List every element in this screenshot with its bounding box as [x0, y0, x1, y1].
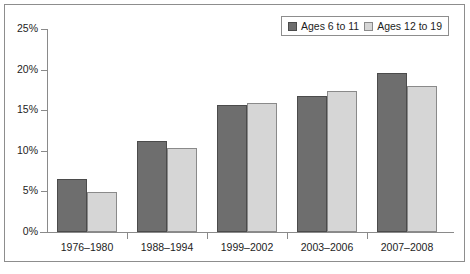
y-axis-tick-label: 15% — [17, 104, 38, 115]
x-axis-category-label: 1988–1994 — [127, 242, 207, 253]
legend-swatch-icon — [364, 22, 373, 31]
x-axis-line — [40, 232, 454, 233]
x-axis-category-label: 1976–1980 — [47, 242, 127, 253]
y-axis-tick-label: 25% — [17, 23, 38, 34]
chart-legend: Ages 6 to 11Ages 12 to 19 — [281, 16, 449, 36]
y-axis-tick-label: 0% — [23, 226, 38, 237]
bar-ages-12-19 — [327, 91, 357, 232]
y-axis-tick-label: 10% — [17, 145, 38, 156]
x-axis-category-label: 2003–2006 — [287, 242, 367, 253]
bar-ages-6-11 — [297, 96, 327, 232]
bar-ages-12-19 — [87, 192, 117, 232]
y-axis-tick-label: 5% — [23, 185, 38, 196]
x-axis-category-label: 1999–2002 — [207, 242, 287, 253]
x-axis-tick — [127, 233, 128, 239]
bar-ages-12-19 — [407, 86, 437, 232]
bar-ages-6-11 — [137, 141, 167, 232]
bar-ages-12-19 — [167, 148, 197, 232]
bar-ages-6-11 — [377, 73, 407, 232]
chart-figure: 0%5%10%15%20%25% 1976–19801988–19941999–… — [0, 0, 470, 274]
plot-area — [47, 29, 447, 232]
y-axis-tick-label: 20% — [17, 64, 38, 75]
bar-ages-6-11 — [57, 179, 87, 232]
legend-swatch-icon — [288, 22, 297, 31]
legend-item: Ages 6 to 11 — [288, 21, 359, 32]
legend-item: Ages 12 to 19 — [364, 21, 442, 32]
x-axis-category-label: 2007–2008 — [367, 242, 447, 253]
bar-ages-12-19 — [247, 103, 277, 232]
legend-label: Ages 12 to 19 — [377, 21, 442, 32]
x-axis-tick — [367, 233, 368, 239]
x-axis-tick — [207, 233, 208, 239]
x-axis-tick — [287, 233, 288, 239]
legend-label: Ages 6 to 11 — [301, 21, 359, 32]
y-axis-tick — [41, 232, 47, 233]
bar-ages-6-11 — [217, 105, 247, 232]
